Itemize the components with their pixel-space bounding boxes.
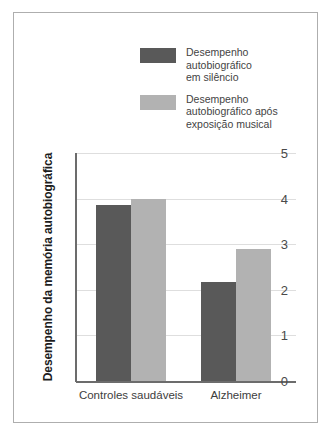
legend-label-music: Desempenho autobiográfico após exposição… [186,93,278,131]
chart-legend: Desempenho autobiográfico em silêncio De… [140,46,310,140]
y-axis-title: Desempenho da memória autobiográfica [39,153,57,381]
gridline-4 [76,199,296,200]
y-axis-title-text: Desempenho da memória autobiográfica [41,153,55,381]
legend-swatch-dark [140,48,176,63]
y-tick-3: 3 [266,237,288,252]
y-tick-5: 5 [266,146,288,161]
legend-item-music: Desempenho autobiográfico após exposição… [140,93,310,131]
y-tick-0: 0 [266,374,288,389]
legend-label-silence: Desempenho autobiográfico em silêncio [186,46,252,84]
figure-canvas: Desempenho autobiográfico em silêncio De… [0,0,336,442]
y-tick-1: 1 [266,328,288,343]
y-tick-4: 4 [266,191,288,206]
bar-controles-musical [131,199,166,381]
x-axis-line [76,381,296,383]
bar-alzheimer-musical [236,249,271,381]
legend-swatch-light [140,95,176,110]
x-tick-alzheimer: Alzheimer [210,389,261,401]
legend-item-silence: Desempenho autobiográfico em silêncio [140,46,310,84]
y-axis-line [75,153,77,382]
x-tick-controles: Controles saudáveis [79,389,183,401]
plot-area: 0 1 2 3 4 5 Controles saudáveis Alzheime… [76,153,296,381]
bar-controles-silencio [96,205,131,381]
bar-alzheimer-silencio [201,282,236,381]
gridline-5 [76,153,296,154]
y-tick-2: 2 [266,282,288,297]
